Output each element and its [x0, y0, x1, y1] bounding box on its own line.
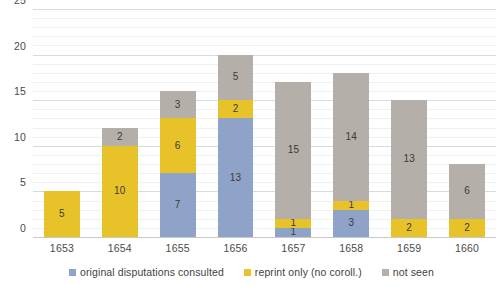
bar-segment[interactable]: 5 — [218, 55, 254, 101]
bar-segment-value: 6 — [175, 141, 181, 151]
bar-segment-value: 3 — [348, 218, 354, 228]
x-axis-tick-label: 1658 — [322, 242, 380, 254]
bar-segment-value: 6 — [464, 186, 470, 196]
legend-item[interactable]: original disputations consulted — [69, 266, 224, 278]
bar-group-1656[interactable]: 1325 — [218, 55, 254, 237]
legend-label: reprint only (no coroll.) — [255, 266, 362, 278]
bar-group-1654[interactable]: 102 — [102, 128, 138, 237]
bar-segment-value: 14 — [346, 132, 358, 142]
bar-segment[interactable]: 5 — [44, 191, 80, 237]
bar-segment-value: 2 — [117, 132, 123, 142]
y-axis-tick-label: 20 — [14, 40, 26, 52]
bar-segment[interactable]: 7 — [160, 173, 196, 237]
bar-segment[interactable]: 10 — [102, 146, 138, 237]
x-axis-tick-label: 1660 — [438, 242, 496, 254]
legend-item[interactable]: reprint only (no coroll.) — [244, 266, 362, 278]
bar-segment[interactable]: 3 — [160, 91, 196, 118]
bar-segment[interactable]: 13 — [391, 100, 427, 219]
x-axis-tick-label: 1653 — [33, 242, 91, 254]
stacked-bar-chart: 0510152025 510276313251115311421326 1653… — [0, 0, 503, 290]
bar-segment-value: 2 — [233, 104, 239, 114]
bar-segment-value: 5 — [233, 72, 239, 82]
bar-segment-value: 1 — [291, 218, 297, 228]
bar-segment[interactable]: 1 — [275, 219, 311, 228]
chart-legend: original disputations consultedreprint o… — [0, 266, 503, 278]
bar-group-1657[interactable]: 1115 — [275, 82, 311, 237]
y-axis-tick-label: 10 — [14, 131, 26, 143]
bar-segment[interactable]: 13 — [218, 118, 254, 237]
legend-swatch-icon — [69, 269, 76, 276]
bar-segment-value: 2 — [464, 223, 470, 233]
bar-group-1658[interactable]: 3114 — [333, 73, 369, 237]
bar-segment[interactable]: 1 — [333, 201, 369, 210]
bar-segment-value: 1 — [348, 200, 354, 210]
legend-swatch-icon — [382, 269, 389, 276]
legend-swatch-icon — [244, 269, 251, 276]
y-axis-tick-label: 15 — [14, 85, 26, 97]
x-axis-tick-label: 1659 — [380, 242, 438, 254]
bar-segment-value: 13 — [230, 173, 242, 183]
bar-segment-value: 3 — [175, 100, 181, 110]
bar-segment[interactable]: 1 — [275, 228, 311, 237]
bar-group-1659[interactable]: 213 — [391, 100, 427, 237]
bar-segment[interactable]: 2 — [449, 219, 485, 237]
x-axis: 16531654165516561657165816591660 — [33, 237, 496, 259]
y-axis-tick-label: 0 — [20, 222, 26, 234]
bar-segment-value: 10 — [114, 186, 126, 196]
bar-segment-value: 5 — [59, 209, 65, 219]
bar-segment[interactable]: 14 — [333, 73, 369, 201]
legend-label: not seen — [393, 266, 434, 278]
legend-item[interactable]: not seen — [382, 266, 434, 278]
bar-segment[interactable]: 2 — [391, 219, 427, 237]
y-axis-tick-label: 25 — [14, 0, 26, 6]
bar-segment-value: 7 — [175, 200, 181, 210]
bar-segment[interactable]: 6 — [449, 164, 485, 219]
bar-group-1660[interactable]: 26 — [449, 164, 485, 237]
bar-segment[interactable]: 3 — [333, 210, 369, 237]
bar-segment-value: 2 — [406, 223, 412, 233]
x-axis-tick-label: 1655 — [149, 242, 207, 254]
x-axis-tick-label: 1654 — [91, 242, 149, 254]
legend-label: original disputations consulted — [80, 266, 224, 278]
bar-group-1653[interactable]: 5 — [44, 191, 80, 237]
bar-segment[interactable]: 6 — [160, 118, 196, 173]
bar-segment[interactable]: 2 — [218, 100, 254, 118]
bar-segment-value: 1 — [291, 227, 297, 237]
bar-segment[interactable]: 15 — [275, 82, 311, 219]
x-axis-tick-label: 1656 — [207, 242, 265, 254]
bar-segment[interactable]: 2 — [102, 128, 138, 146]
bar-segment-value: 13 — [403, 154, 415, 164]
bar-group-1655[interactable]: 763 — [160, 91, 196, 237]
y-axis-tick-label: 5 — [20, 176, 26, 188]
x-axis-tick-label: 1657 — [265, 242, 323, 254]
bars-layer: 510276313251115311421326 — [33, 9, 496, 237]
y-axis: 0510152025 — [0, 0, 30, 237]
bar-segment-value: 15 — [288, 145, 300, 155]
